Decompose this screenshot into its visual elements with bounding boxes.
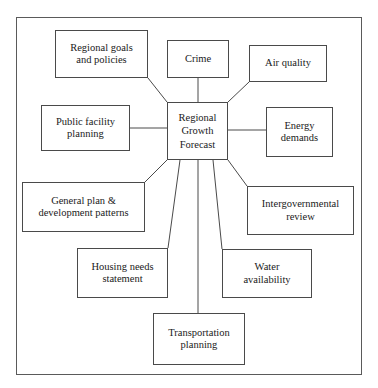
- node-label-energy-demands: Energy demands: [281, 120, 318, 145]
- node-transportation-planning[interactable]: Transportation planning: [153, 313, 245, 365]
- node-label-water-availability: Water availability: [243, 261, 290, 286]
- node-label-transportation-planning: Transportation planning: [168, 327, 229, 352]
- connector-center-to-general-plan: [145, 160, 167, 182]
- node-label-air-quality: Air quality: [265, 57, 311, 69]
- node-regional-goals-and-policies[interactable]: Regional goals and policies: [55, 30, 148, 78]
- node-label-housing-needs-statement: Housing needs statement: [91, 261, 153, 286]
- node-housing-needs-statement[interactable]: Housing needs statement: [77, 248, 168, 298]
- node-water-availability[interactable]: Water availability: [222, 249, 312, 298]
- node-label-regional-goals-and-policies: Regional goals and policies: [70, 42, 133, 67]
- connector-center-to-water-availability: [213, 160, 222, 249]
- node-label-crime: Crime: [185, 53, 211, 65]
- node-intergovernmental-review[interactable]: Intergovernmental review: [247, 186, 354, 235]
- node-energy-demands[interactable]: Energy demands: [266, 107, 333, 157]
- node-crime[interactable]: Crime: [167, 40, 229, 78]
- node-public-facility-planning[interactable]: Public facility planning: [41, 105, 130, 151]
- connector-center-to-regional-goals: [148, 78, 167, 102]
- connector-center-to-air-quality: [228, 82, 249, 102]
- node-label-intergovernmental-review: Intergovernmental review: [262, 198, 339, 223]
- node-label-regional-growth-forecast: Regional Growth Forecast: [179, 111, 217, 152]
- connector-center-to-intergovernmental-review: [228, 160, 247, 186]
- diagram-canvas: Regional Growth ForecastRegional goals a…: [0, 0, 378, 388]
- node-label-public-facility-planning: Public facility planning: [56, 116, 115, 141]
- node-label-general-plan-and-development-patterns: General plan & development patterns: [38, 195, 128, 220]
- node-air-quality[interactable]: Air quality: [249, 45, 327, 82]
- node-regional-growth-forecast[interactable]: Regional Growth Forecast: [167, 102, 228, 160]
- connector-center-to-housing-needs: [168, 160, 180, 248]
- node-general-plan-and-development-patterns[interactable]: General plan & development patterns: [22, 182, 145, 232]
